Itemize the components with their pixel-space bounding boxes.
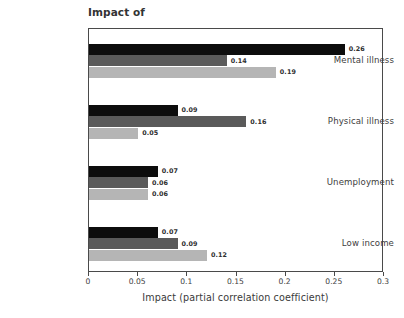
bar-value-label: 0.06 <box>152 190 168 198</box>
bar-value-label: 0.06 <box>152 179 168 187</box>
bar-row: 0.06 <box>89 189 382 200</box>
x-tick-label: 0.2 <box>279 277 291 286</box>
bar-value-label: 0.12 <box>211 251 227 259</box>
x-tick-label: 0.1 <box>180 277 192 286</box>
x-tick-mark <box>334 272 335 276</box>
x-tick-mark <box>186 272 187 276</box>
bar <box>89 166 158 177</box>
bar <box>89 44 345 55</box>
bar-row: 0.26 <box>89 44 382 55</box>
chart-title: Impact of <box>88 6 145 18</box>
category-label: Unemployment <box>327 177 394 187</box>
bar-row: 0.12 <box>89 250 382 261</box>
category-label: Low income <box>342 238 394 248</box>
bar-row: 0.09 <box>89 238 382 249</box>
bar-value-label: 0.09 <box>182 240 198 248</box>
bar-row: 0.05 <box>89 128 382 139</box>
bar <box>89 250 207 261</box>
x-tick-label: 0.05 <box>129 277 146 286</box>
bar <box>89 189 148 200</box>
bar-value-label: 0.07 <box>162 228 178 236</box>
x-axis-title: Impact (partial correlation coefficient) <box>88 292 383 303</box>
bar-row: 0.19 <box>89 67 382 78</box>
bar <box>89 105 178 116</box>
bar-group: 0.070.090.12 <box>89 227 382 261</box>
bar-chart: Impact of 0.260.140.190.090.160.050.070.… <box>0 0 404 318</box>
x-tick-mark <box>285 272 286 276</box>
category-label: Mental illness <box>334 55 394 65</box>
bar-value-label: 0.16 <box>250 118 266 126</box>
bar <box>89 177 148 188</box>
x-tick-mark <box>88 272 89 276</box>
x-tick-label: 0.15 <box>227 277 244 286</box>
bar-value-label: 0.19 <box>280 68 296 76</box>
bar <box>89 227 158 238</box>
x-tick-label: 0.25 <box>325 277 342 286</box>
x-tick-mark <box>236 272 237 276</box>
bar-row: 0.07 <box>89 166 382 177</box>
bars-layer: 0.260.140.190.090.160.050.070.060.060.07… <box>89 29 382 271</box>
bar <box>89 116 246 127</box>
x-tick-mark <box>383 272 384 276</box>
bar-value-label: 0.09 <box>182 106 198 114</box>
x-tick-label: 0 <box>86 277 91 286</box>
bar-value-label: 0.26 <box>349 45 365 53</box>
x-tick-label: 0.3 <box>377 277 389 286</box>
bar-value-label: 0.14 <box>231 57 247 65</box>
x-tick-mark <box>137 272 138 276</box>
bar-row: 0.09 <box>89 105 382 116</box>
bar <box>89 128 138 139</box>
bar <box>89 238 178 249</box>
bar-value-label: 0.07 <box>162 167 178 175</box>
bar-value-label: 0.05 <box>142 129 158 137</box>
plot-area: 0.260.140.190.090.160.050.070.060.060.07… <box>88 28 383 272</box>
bar <box>89 67 276 78</box>
category-label: Physical illness <box>328 116 394 126</box>
bar-row: 0.07 <box>89 227 382 238</box>
bar <box>89 55 227 66</box>
